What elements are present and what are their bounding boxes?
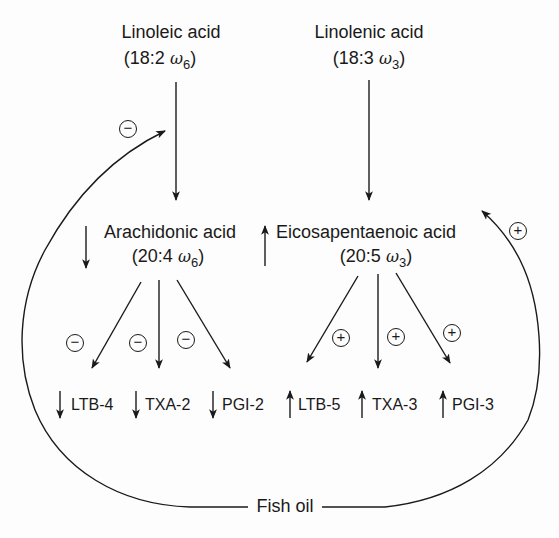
eicosapentaenoic-acid-label: Eicosapentaenoic acid bbox=[276, 222, 456, 242]
notation-prefix: (20:4 bbox=[132, 246, 178, 266]
arrow-aa-to-ltb4 bbox=[92, 282, 141, 368]
pgi2-inhibition-sign: − bbox=[177, 331, 195, 349]
omega-symbol: ω bbox=[386, 247, 399, 266]
arrow-epa-to-pgi3 bbox=[396, 273, 450, 363]
linolenic-acid-notation: (18:3 ω3) bbox=[333, 48, 405, 75]
arachidonic-acid-notation: (20:4 ω6) bbox=[132, 246, 204, 273]
product-pgi2: PGI-2 bbox=[222, 395, 264, 415]
notation-suffix: ) bbox=[190, 48, 196, 68]
notation-suffix: ) bbox=[399, 48, 405, 68]
txa3-promotion-sign: + bbox=[387, 328, 405, 346]
notation-suffix: ) bbox=[198, 246, 204, 266]
diagram-connectors bbox=[0, 0, 559, 538]
product-ltb5: LTB-5 bbox=[298, 395, 340, 415]
arrow-aa-to-pgi2 bbox=[177, 280, 230, 368]
fish-oil-label: Fish oil bbox=[256, 496, 313, 516]
arrow-epa-to-ltb5 bbox=[307, 276, 358, 362]
linoleic-acid-notation: (18:2 ω6) bbox=[124, 48, 196, 75]
product-txa3: TXA-3 bbox=[372, 395, 417, 415]
notation-suffix: ) bbox=[406, 246, 412, 266]
notation-prefix: (18:2 bbox=[124, 48, 170, 68]
fish-oil-inhibition-sign: − bbox=[119, 120, 137, 138]
fish-oil-eicosanoid-diagram: Linoleic acid (18:2 ω6) Linolenic acid (… bbox=[0, 0, 559, 538]
notation-prefix: (20:5 bbox=[340, 246, 386, 266]
arachidonic-acid-label: Arachidonic acid bbox=[104, 222, 236, 242]
notation-prefix: (18:3 bbox=[333, 48, 379, 68]
product-txa2: TXA-2 bbox=[145, 395, 190, 415]
product-ltb4: LTB-4 bbox=[71, 395, 113, 415]
eicosapentaenoic-acid-notation: (20:5 ω3) bbox=[340, 246, 412, 273]
txa2-inhibition-sign: − bbox=[129, 334, 147, 352]
ltb4-inhibition-sign: − bbox=[66, 334, 84, 352]
linolenic-acid-label: Linolenic acid bbox=[314, 22, 423, 42]
pgi3-promotion-sign: + bbox=[443, 324, 461, 342]
product-pgi3: PGI-3 bbox=[452, 395, 494, 415]
omega-symbol: ω bbox=[178, 247, 191, 266]
omega-symbol: ω bbox=[170, 49, 183, 68]
fish-oil-inhibition-arc bbox=[22, 131, 248, 507]
omega-symbol: ω bbox=[379, 49, 392, 68]
linoleic-acid-label: Linoleic acid bbox=[121, 22, 220, 42]
ltb5-promotion-sign: + bbox=[332, 329, 350, 347]
fish-oil-promotion-sign: + bbox=[509, 222, 527, 240]
